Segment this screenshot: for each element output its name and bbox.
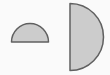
figure-canvas: [0, 0, 110, 75]
